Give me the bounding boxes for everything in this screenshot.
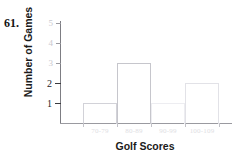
- x-tick-0: [83, 123, 84, 127]
- figure-histogram: 61. Number of Games 5 4 3 2 1: [0, 0, 240, 161]
- x-axis-title: Golf Scores: [60, 140, 230, 152]
- y-axis-line: [60, 21, 61, 124]
- x-label-80-89: 80-89: [125, 127, 142, 135]
- y-tick-label-4: 4: [49, 38, 54, 48]
- y-tick-4: 4: [56, 43, 61, 44]
- x-label-90-99: 90-99: [159, 127, 176, 135]
- bar-70-79: [83, 103, 117, 124]
- bar-80-89: [117, 63, 151, 124]
- y-tick-label-5: 5: [49, 18, 54, 28]
- x-tick-3: [185, 123, 186, 127]
- y-tick-label-1: 1: [47, 98, 52, 109]
- x-tick-1: [117, 123, 118, 127]
- y-tick-3: 3: [56, 63, 61, 64]
- y-tick-label-3: 3: [49, 58, 54, 68]
- plot-area: 5 4 3 2 1 70-79 80-89 90-99 100-109: [60, 21, 232, 124]
- y-tick-label-2: 2: [47, 78, 52, 89]
- y-tick-1: 1: [55, 103, 61, 104]
- problem-number: 61.: [4, 16, 19, 31]
- bar-90-99: [151, 103, 185, 124]
- y-tick-2: 2: [55, 83, 61, 84]
- x-label-100-109: 100-109: [190, 127, 215, 135]
- bar-100-109: [185, 83, 219, 124]
- y-axis-title: Number of Games: [22, 5, 34, 99]
- x-label-70-79: 70-79: [91, 127, 108, 135]
- x-tick-2: [151, 123, 152, 127]
- x-tick-4: [219, 123, 220, 127]
- y-tick-5: 5: [56, 23, 61, 24]
